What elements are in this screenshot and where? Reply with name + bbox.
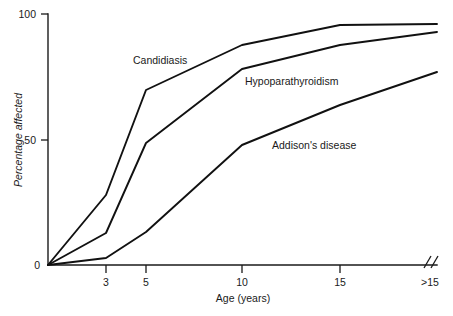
- series-line-hypoparathyroidism: [48, 32, 437, 265]
- series-label-candidiasis: Candidiasis: [133, 54, 187, 66]
- x-tick-label-5: 5: [143, 276, 149, 288]
- x-tick-label-15: 15: [334, 276, 346, 288]
- y-tick-label-0: 0: [34, 259, 40, 271]
- series-line-addisons-disease: [48, 72, 437, 265]
- chart-container: 100 50 0 3 5 10 15 >15 Age (years) Perce…: [0, 0, 453, 316]
- series-label-hypoparathyroidism: Hypoparathyroidism: [245, 75, 339, 87]
- axis-break-slash-1: [424, 256, 431, 268]
- series-label-addisons-disease: Addison's disease: [272, 139, 356, 151]
- axis-break-slash-2: [431, 256, 438, 268]
- x-tick-label-10: 10: [236, 276, 248, 288]
- line-chart-plot: 100 50 0 3 5 10 15 >15 Age (years) Perce…: [0, 0, 453, 316]
- y-axis-title: Percentage affected: [12, 92, 24, 187]
- x-axis-title: Age (years): [216, 292, 270, 304]
- x-tick-label-over-15: >15: [421, 276, 439, 288]
- x-tick-label-3: 3: [103, 276, 109, 288]
- y-tick-label-100: 100: [18, 8, 36, 20]
- y-tick-label-50: 50: [24, 134, 36, 146]
